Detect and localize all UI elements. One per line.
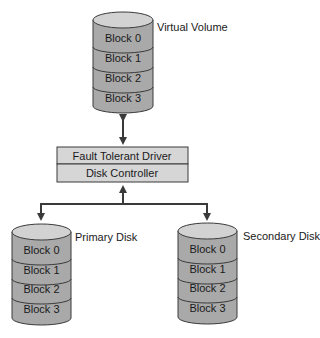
vv-block-1: Block 1 xyxy=(105,52,141,64)
primary-disk-cylinder: Block 0 Block 1 Block 2 Block 3 xyxy=(12,224,71,325)
primary-disk-label: Primary Disk xyxy=(75,231,138,243)
virtual-volume-label: Virtual Volume xyxy=(157,21,228,33)
secondary-disk-label: Secondary Disk xyxy=(243,230,320,242)
secondary-disk-cylinder: Block 0 Block 1 Block 2 Block 3 xyxy=(178,223,237,324)
primary-block-3: Block 3 xyxy=(23,303,59,315)
vv-block-2: Block 2 xyxy=(105,72,141,84)
primary-block-0: Block 0 xyxy=(23,244,59,256)
secondary-block-3: Block 3 xyxy=(189,302,225,314)
secondary-block-2: Block 2 xyxy=(189,282,225,294)
vv-block-3: Block 3 xyxy=(105,92,141,104)
driver-stack: Fault Tolerant Driver Disk Controller xyxy=(57,147,188,182)
primary-block-2: Block 2 xyxy=(23,283,59,295)
vv-block-0: Block 0 xyxy=(105,32,141,44)
primary-block-1: Block 1 xyxy=(23,264,59,276)
secondary-block-0: Block 0 xyxy=(189,243,225,255)
virtual-volume-cylinder: Block 0 Block 1 Block 2 Block 3 xyxy=(93,12,153,113)
secondary-block-1: Block 1 xyxy=(189,263,225,275)
disk-controller-label: Disk Controller xyxy=(86,167,158,179)
mirroring-diagram: Block 0 Block 1 Block 2 Block 3 Virtual … xyxy=(0,0,320,338)
fault-tolerant-driver-label: Fault Tolerant Driver xyxy=(73,150,172,162)
connector-line xyxy=(41,204,207,218)
